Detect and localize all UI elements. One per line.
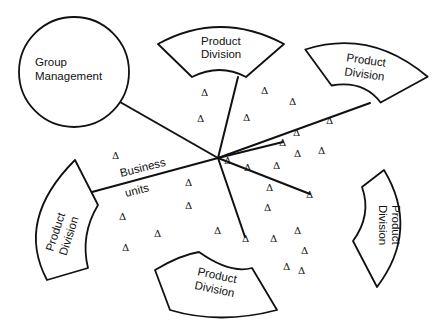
business-unit-triangle-icon: Δ [301, 245, 308, 256]
business-units-diagram: Group Management Product Division Produc… [0, 0, 443, 323]
business-unit-triangle-icon: Δ [185, 177, 192, 188]
business-unit-triangle-icon: Δ [270, 233, 277, 244]
product-division-top: Product Division [158, 27, 284, 77]
business-unit-triangle-icon: Δ [122, 242, 129, 253]
business-unit-triangle-icon: Δ [243, 112, 250, 123]
business-unit-triangle-icon: Δ [298, 265, 305, 276]
division-label: Division [377, 205, 389, 245]
business-unit-triangle-icon: Δ [197, 113, 204, 124]
group-management-label-1: Group [35, 56, 67, 68]
line-to-group-management [120, 102, 218, 158]
division-label: Product [390, 205, 402, 245]
business-unit-triangle-icon: Δ [279, 137, 286, 148]
units-label: units [124, 181, 151, 199]
business-unit-triangle-icon: Δ [294, 148, 301, 159]
group-management-node: Group Management [19, 17, 129, 127]
business-unit-triangle-icon: Δ [154, 228, 161, 239]
business-unit-triangle-icon: Δ [294, 225, 301, 236]
business-unit-triangle-icon: Δ [266, 182, 273, 193]
business-unit-triangle-icon: Δ [112, 150, 119, 161]
line-to-top-division [218, 77, 238, 158]
business-unit-triangle-icon: Δ [244, 162, 251, 173]
product-division-right: Product Division [353, 170, 402, 287]
business-unit-triangle-icon: Δ [119, 211, 126, 222]
business-unit-triangle-icon: Δ [185, 200, 192, 211]
business-unit-triangle-icon: Δ [273, 160, 280, 171]
business-unit-triangles: ΔΔΔΔΔΔΔΔΔΔΔΔΔΔΔΔΔΔΔΔΔΔΔΔΔΔΔΔΔ [112, 85, 333, 276]
business-unit-triangle-icon: Δ [242, 233, 249, 244]
business-unit-triangle-icon: Δ [261, 85, 268, 96]
business-unit-triangle-icon: Δ [326, 115, 333, 126]
division-label: Product [201, 35, 241, 47]
product-division-left: Product Division [36, 160, 98, 280]
product-division-bottom: Product Division [155, 252, 277, 318]
business-unit-triangle-icon: Δ [201, 87, 208, 98]
business-unit-triangle-icon: Δ [293, 127, 300, 138]
line-to-triangle-b [218, 158, 310, 194]
business-unit-triangle-icon: Δ [264, 202, 271, 213]
business-unit-triangle-icon: Δ [214, 225, 221, 236]
business-unit-triangle-icon: Δ [283, 261, 290, 272]
business-unit-triangle-icon: Δ [318, 145, 325, 156]
group-management-label-2: Management [35, 70, 103, 82]
business-unit-triangle-icon: Δ [224, 155, 231, 166]
line-to-triangle-c [218, 158, 245, 237]
business-label: Business [119, 156, 167, 179]
division-label: Division [201, 48, 241, 60]
product-division-top-right: Product Division [299, 37, 430, 109]
business-unit-triangle-icon: Δ [289, 96, 296, 107]
business-unit-triangle-icon: Δ [306, 189, 313, 200]
